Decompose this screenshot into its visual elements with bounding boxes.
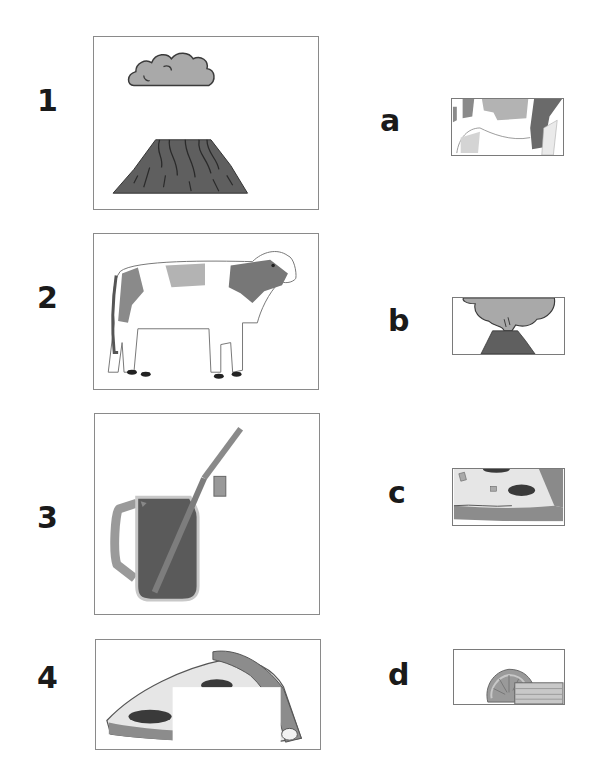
item-letter-b: b bbox=[388, 306, 409, 336]
pizza-detail-picture bbox=[452, 468, 565, 526]
lemon-straw-crop-icon bbox=[454, 650, 564, 704]
drink-picture bbox=[94, 413, 320, 615]
item-number-3: 3 bbox=[37, 503, 58, 533]
cow-icon bbox=[94, 234, 318, 389]
item-number-1: 1 bbox=[37, 86, 58, 116]
cow-picture bbox=[93, 233, 319, 390]
item-number-4: 4 bbox=[37, 663, 58, 693]
item-letter-c: c bbox=[388, 478, 406, 508]
pizza-crop-icon bbox=[453, 469, 564, 525]
volcano-crop-icon bbox=[453, 298, 564, 354]
cow-detail-picture bbox=[451, 98, 564, 156]
volcano-icon bbox=[94, 37, 318, 209]
drink-detail-picture bbox=[453, 649, 565, 705]
item-number-2: 2 bbox=[37, 283, 58, 313]
volcano-detail-picture bbox=[452, 297, 565, 355]
jar-drink-icon bbox=[95, 414, 319, 614]
item-letter-d: d bbox=[388, 660, 409, 690]
volcano-picture bbox=[93, 36, 319, 210]
pizza-icon bbox=[96, 640, 320, 749]
item-letter-a: a bbox=[380, 106, 400, 136]
cow-crop-icon bbox=[452, 99, 563, 155]
pizza-picture bbox=[95, 639, 321, 750]
